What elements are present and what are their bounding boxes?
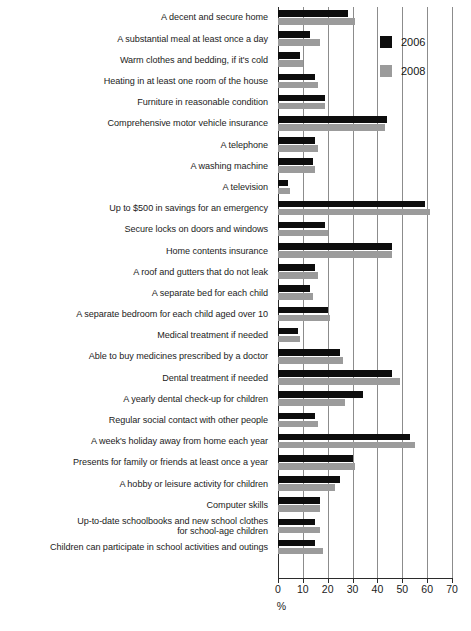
legend-item-2008: 2008: [380, 65, 425, 77]
bar-2008: [278, 209, 430, 216]
bar-2008: [278, 230, 328, 237]
bar-2008: [278, 421, 318, 428]
x-axis-title-text: %: [277, 600, 286, 612]
bar-group: [278, 304, 452, 325]
bar-group: [278, 367, 452, 388]
bar-2008: [278, 442, 415, 449]
category-row: Regular social contact with other people: [0, 410, 272, 431]
x-tick-label: 70: [446, 583, 458, 595]
bar-group: [278, 113, 452, 134]
bar-2008: [278, 527, 320, 534]
bar-2008: [278, 315, 330, 322]
category-label: Medical treatment if needed: [157, 330, 272, 340]
x-tick-label: 0: [275, 583, 281, 595]
bar-chart: A decent and secure homeA substantial me…: [0, 0, 471, 631]
legend-item-2006: 2006: [380, 36, 425, 48]
bar-2008: [278, 166, 315, 173]
bar-2008: [278, 484, 335, 491]
bar-2006: [278, 434, 410, 441]
bar-group: [278, 452, 452, 473]
bar-2006: [278, 74, 315, 81]
bar-2006: [278, 413, 315, 420]
bar-group: [278, 177, 452, 198]
bar-2008: [278, 463, 355, 470]
legend-label-2006: 2006: [401, 36, 425, 48]
category-label: Computer skills: [207, 500, 272, 510]
bar-group: [278, 28, 452, 49]
category-row: Home contents insurance: [0, 240, 272, 261]
bar-2008: [278, 505, 320, 512]
category-row: A separate bedroom for each child aged o…: [0, 304, 272, 325]
category-row: A yearly dental check-up for children: [0, 388, 272, 409]
category-label: Up-to-date schoolbooks and new school cl…: [77, 516, 272, 536]
bar-2006: [278, 222, 325, 229]
category-row: Up-to-date schoolbooks and new school cl…: [0, 516, 272, 537]
bar-group: [278, 261, 452, 282]
chart-legend: 2006 2008: [380, 36, 425, 94]
category-label: A washing machine: [190, 161, 272, 171]
bar-2006: [278, 52, 300, 59]
x-tick-label: 60: [421, 583, 433, 595]
bar-2006: [278, 455, 353, 462]
category-row: A television: [0, 177, 272, 198]
bar-2008: [278, 145, 318, 152]
gray-square-icon: [380, 65, 392, 77]
bar-2008: [278, 60, 303, 67]
bar-2006: [278, 264, 315, 271]
bar-group: [278, 219, 452, 240]
bar-2008: [278, 399, 345, 406]
gridline: [452, 7, 453, 579]
category-row: Children can participate in school activ…: [0, 537, 272, 558]
bar-2008: [278, 39, 320, 46]
legend-label-2008: 2008: [401, 65, 425, 77]
bar-2006: [278, 180, 288, 187]
bar-group: [278, 473, 452, 494]
bar-2008: [278, 272, 318, 279]
category-row: Furniture in reasonable condition: [0, 92, 272, 113]
category-label: A hobby or leisure activity for children: [119, 479, 272, 489]
category-label: Comprehensive motor vehicle insurance: [108, 118, 272, 128]
category-label: Home contents insurance: [166, 246, 272, 256]
bar-2008: [278, 103, 325, 110]
bar-2006: [278, 497, 320, 504]
bar-2008: [278, 188, 290, 195]
x-axis-title: %: [0, 600, 471, 612]
bar-2006: [278, 370, 392, 377]
category-row: A decent and secure home: [0, 7, 272, 28]
plot-area: A decent and secure homeA substantial me…: [0, 0, 471, 631]
bars-column: [278, 7, 452, 558]
bar-2006: [278, 10, 348, 17]
bar-group: [278, 71, 452, 92]
bar-group: [278, 516, 452, 537]
category-row: Comprehensive motor vehicle insurance: [0, 113, 272, 134]
category-label: Heating in at least one room of the hous…: [104, 76, 272, 86]
black-square-icon: [380, 36, 392, 48]
bar-2006: [278, 391, 363, 398]
bar-2008: [278, 124, 385, 131]
x-tick-label: 30: [347, 583, 359, 595]
category-label: Secure locks on doors and windows: [125, 224, 272, 234]
category-label: Presents for family or friends at least …: [73, 457, 272, 467]
category-row: A telephone: [0, 134, 272, 155]
category-label: A television: [223, 182, 272, 192]
bar-2006: [278, 476, 340, 483]
bar-group: [278, 388, 452, 409]
bar-2006: [278, 137, 315, 144]
bar-group: [278, 431, 452, 452]
bar-2008: [278, 82, 318, 89]
category-label: Children can participate in school activ…: [50, 542, 272, 552]
category-row: Computer skills: [0, 494, 272, 515]
category-row: Dental treatment if needed: [0, 367, 272, 388]
category-label: A separate bedroom for each child aged o…: [76, 309, 272, 319]
category-label: Dental treatment if needed: [162, 373, 272, 383]
bar-2006: [278, 158, 313, 165]
category-label-column: A decent and secure homeA substantial me…: [0, 7, 272, 558]
x-tick-label: 40: [372, 583, 384, 595]
bar-2006: [278, 328, 298, 335]
category-label: A telephone: [221, 140, 273, 150]
category-label: A week's holiday away from home each yea…: [91, 436, 272, 446]
bar-group: [278, 155, 452, 176]
bar-group: [278, 410, 452, 431]
bar-2008: [278, 548, 323, 555]
category-label: Regular social contact with other people: [109, 415, 272, 425]
